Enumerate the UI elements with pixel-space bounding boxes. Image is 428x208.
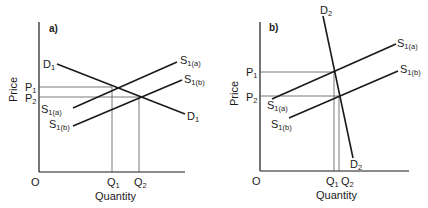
origin-label: O <box>31 176 40 188</box>
panel-a: a) Price P1 P2 D1 D1 S1(a) S1(a) S1(b) S… <box>7 22 205 202</box>
label-d2-bottom: D2 <box>350 158 362 172</box>
label-s1a-left: S1(a) <box>267 99 288 113</box>
quantity-label-q1: Q1 <box>107 176 120 190</box>
panel-tag: b) <box>269 22 278 33</box>
label-s1b-right: S1(b) <box>184 73 205 87</box>
panel-tag: a) <box>49 23 58 34</box>
origin-label: O <box>252 175 261 187</box>
label-s1a-left: S1(a) <box>41 103 62 117</box>
label-s1b-left: S1(b) <box>49 118 70 132</box>
label-s1a-right: S1(a) <box>397 37 418 51</box>
label-d1-left: D1 <box>43 58 55 72</box>
x-axis-label: Quantity <box>316 189 357 201</box>
demand-curve-d2 <box>323 16 353 158</box>
label-d2-top: D2 <box>320 4 332 18</box>
label-s1a-right: S1(a) <box>180 54 201 68</box>
label-s1b-left: S1(b) <box>271 118 292 132</box>
supply-curve-s1a <box>73 62 177 108</box>
price-label-p1: P1 <box>246 66 258 80</box>
quantity-label-q1: Q1 <box>326 175 339 189</box>
y-axis-label: Price <box>228 81 240 106</box>
quantity-label-q2: Q2 <box>341 175 354 189</box>
panel-b: b) Price P1 P2 D2 D2 S1(a) S1(a) S1(b) S… <box>228 4 421 201</box>
quantity-label-q2: Q2 <box>134 176 147 190</box>
label-d1-right: D1 <box>187 110 199 124</box>
price-label-p2: P2 <box>246 91 258 105</box>
label-s1b-right: S1(b) <box>400 63 421 77</box>
x-axis-label: Quantity <box>95 190 136 202</box>
y-axis-label: Price <box>7 77 19 102</box>
